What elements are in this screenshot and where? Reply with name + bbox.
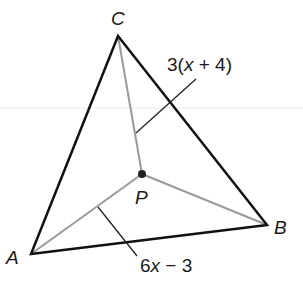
point-label-p: P	[135, 187, 148, 208]
point-p	[138, 170, 146, 178]
vertex-label-b: B	[274, 217, 287, 238]
length-label-pc: 3(x + 4)	[167, 54, 232, 75]
segment-pc	[118, 36, 142, 174]
vertex-label-c: C	[111, 8, 125, 29]
length-label-pa: 6x − 3	[140, 255, 192, 276]
triangle-diagram: C A B P 3(x + 4) 6x − 3	[0, 0, 303, 299]
leader-line-pa	[98, 207, 137, 256]
vertex-label-a: A	[5, 247, 19, 268]
